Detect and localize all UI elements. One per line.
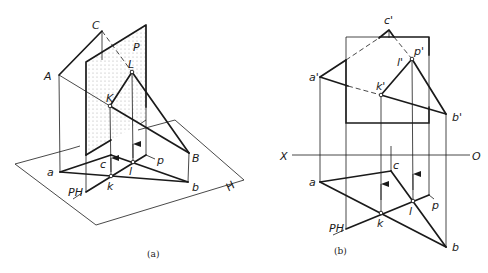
label-A: A — [43, 70, 52, 83]
point-k — [379, 211, 383, 215]
point-k-prime — [379, 93, 383, 97]
label-c: c — [100, 158, 106, 171]
panel-b: c' a' b' k' l' p' X O a b c k l p PH (b) — [279, 14, 481, 256]
label-p-prime: p' — [413, 45, 424, 58]
point-l — [131, 160, 135, 164]
label-p: p — [156, 154, 164, 167]
label-b: b — [452, 241, 459, 254]
label-a-prime: a' — [309, 71, 319, 84]
label-L: L — [128, 58, 134, 71]
h-plane-mid-hidden — [70, 146, 80, 149]
label-c: c — [393, 159, 399, 172]
label-X: X — [279, 150, 288, 163]
label-C: C — [92, 19, 100, 32]
label-O: O — [472, 150, 481, 163]
projector-a — [59, 75, 60, 172]
projection-diagram: C A P L K B a b c k l p PH H (a) — [0, 0, 488, 273]
label-PH: PH — [329, 222, 344, 235]
caption-b: (b) — [334, 246, 347, 256]
label-b: b — [192, 181, 199, 194]
caption-a: (a) — [147, 249, 159, 259]
label-k: k — [377, 217, 384, 230]
label-k: k — [107, 180, 114, 193]
edge-a-k-prime — [320, 77, 348, 86]
label-c-prime: c' — [384, 14, 393, 27]
edge-a-c-prime-hidden — [346, 38, 379, 60]
trace-ph — [346, 195, 429, 229]
label-a: a — [309, 176, 316, 189]
label-l-prime: l' — [397, 56, 403, 69]
proj-ab — [60, 172, 188, 182]
p-leader — [146, 155, 155, 159]
h-plane-back-edge — [138, 120, 244, 180]
label-P: P — [133, 41, 140, 54]
label-K: K — [106, 92, 114, 105]
panel-a: C A P L K B a b c k l p PH H (a) — [15, 19, 244, 259]
label-B: B — [192, 152, 200, 165]
label-p: p — [431, 199, 439, 212]
label-l: l — [409, 205, 412, 218]
label-H: H — [223, 179, 237, 194]
label-b-prime: b' — [452, 111, 462, 124]
h-plane-outline — [15, 149, 244, 225]
edge-a-c-prime-visible — [320, 60, 346, 77]
label-a: a — [47, 166, 54, 179]
plane-p-front — [346, 60, 429, 123]
proj-ac — [320, 171, 391, 182]
label-l: l — [129, 165, 132, 178]
point-k — [109, 174, 113, 178]
label-PH: PH — [68, 186, 83, 199]
point-l — [411, 199, 415, 203]
projector-b — [188, 153, 189, 182]
label-k-prime: k' — [376, 80, 385, 93]
